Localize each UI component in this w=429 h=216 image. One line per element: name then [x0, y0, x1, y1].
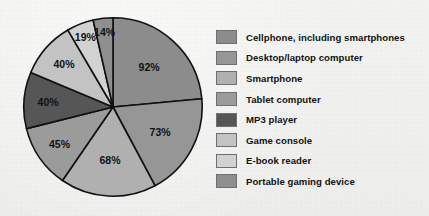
legend-item-ebook-reader[interactable]: E-book reader: [216, 151, 424, 172]
pie-slice-label: 14%: [94, 26, 116, 38]
pie-slice-label: 40%: [54, 58, 76, 70]
legend-swatch-icon: [216, 92, 237, 106]
legend-item-portable-gaming[interactable]: Portable gaming device: [216, 171, 424, 192]
legend-item-cellphone[interactable]: Cellphone, including smartphones: [216, 27, 424, 48]
pie-slice-label: 40%: [38, 96, 60, 108]
legend-swatch-icon: [216, 133, 237, 147]
legend-swatch-icon: [216, 113, 237, 127]
legend-item-desktop-laptop[interactable]: Desktop/laptop computer: [216, 48, 424, 69]
legend-item-label: Portable gaming device: [246, 176, 355, 187]
legend-swatch-icon: [216, 154, 237, 168]
legend-item-mp3-player[interactable]: MP3 player: [216, 109, 424, 130]
legend-item-game-console[interactable]: Game console: [216, 130, 424, 151]
pie-svg: 92%73%68%45%40%40%19%14%: [22, 16, 204, 198]
legend-item-label: Cellphone, including smartphones: [246, 32, 405, 43]
legend-item-label: Desktop/laptop computer: [246, 52, 363, 63]
pie-chart-figure: 92%73%68%45%40%40%19%14% Cellphone, incl…: [0, 0, 429, 216]
legend-swatch-icon: [216, 30, 237, 44]
pie-slice-label: 73%: [150, 126, 172, 138]
legend-swatch-icon: [216, 174, 237, 188]
pie-slice-label: 45%: [49, 138, 71, 150]
pie-slice-label: 92%: [139, 61, 161, 73]
legend-item-label: Smartphone: [246, 73, 302, 84]
legend-item-tablet[interactable]: Tablet computer: [216, 89, 424, 110]
legend-swatch-icon: [216, 71, 237, 85]
pie-chart: 92%73%68%45%40%40%19%14%: [22, 16, 204, 198]
pie-slice-label: 68%: [99, 154, 121, 166]
legend-item-label: Game console: [246, 135, 312, 146]
legend: Cellphone, including smartphones Desktop…: [216, 27, 424, 192]
legend-item-label: E-book reader: [246, 155, 311, 166]
legend-swatch-icon: [216, 51, 237, 65]
legend-item-smartphone[interactable]: Smartphone: [216, 68, 424, 89]
legend-item-label: MP3 player: [246, 114, 297, 125]
legend-item-label: Tablet computer: [246, 94, 321, 105]
